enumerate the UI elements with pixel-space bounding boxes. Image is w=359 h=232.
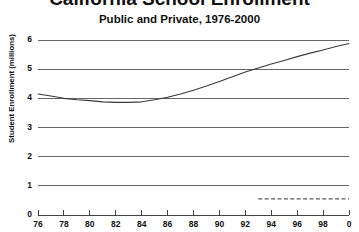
y-tick-label: 2 bbox=[10, 151, 32, 161]
x-tick-label: 92 bbox=[234, 219, 256, 229]
x-tick-label: 0 bbox=[338, 219, 359, 229]
x-tick-label: 94 bbox=[260, 219, 282, 229]
plot-area bbox=[0, 0, 359, 232]
x-tick-label: 80 bbox=[79, 219, 101, 229]
x-tick-label: 88 bbox=[183, 219, 205, 229]
x-tick-label: 76 bbox=[27, 219, 49, 229]
tick-marks bbox=[38, 210, 349, 215]
series-line-public bbox=[38, 44, 349, 103]
x-tick-label: 98 bbox=[312, 219, 334, 229]
x-tick-label: 86 bbox=[157, 219, 179, 229]
y-tick-label: 5 bbox=[10, 63, 32, 73]
x-tick-label: 90 bbox=[208, 219, 230, 229]
data-series bbox=[38, 44, 349, 199]
x-tick-label: 84 bbox=[131, 219, 153, 229]
chart-container: California School Enrollment Public and … bbox=[0, 0, 359, 232]
gridlines bbox=[38, 40, 349, 186]
y-tick-label: 0 bbox=[10, 209, 32, 219]
y-tick-label: 4 bbox=[10, 92, 32, 102]
y-tick-label: 3 bbox=[10, 122, 32, 132]
y-tick-label: 1 bbox=[10, 180, 32, 190]
y-tick-label: 6 bbox=[10, 34, 32, 44]
x-tick-label: 78 bbox=[53, 219, 75, 229]
x-tick-label: 96 bbox=[286, 219, 308, 229]
x-tick-label: 82 bbox=[105, 219, 127, 229]
